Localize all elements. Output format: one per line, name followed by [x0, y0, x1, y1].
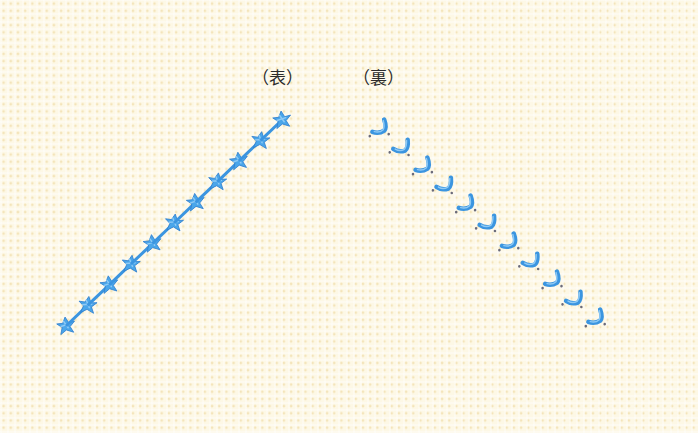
front-stitch-row: [56, 110, 292, 335]
back-stitch-hook: [561, 289, 585, 308]
back-stitch-hook: [583, 309, 606, 327]
back-stitch-hook: [518, 251, 542, 270]
back-stitch-hook: [453, 195, 476, 213]
back-stitch-hook: [540, 271, 563, 289]
back-stitch-hook: [475, 213, 499, 232]
back-stitch-hook: [388, 137, 412, 156]
back-stitch-hook: [497, 233, 520, 251]
stitch-illustration: [0, 0, 698, 433]
back-stitch-hook: [367, 119, 390, 137]
back-stitch-hook: [431, 175, 455, 194]
back-stitch-hook: [410, 157, 433, 175]
back-stitch-row: [367, 119, 606, 327]
